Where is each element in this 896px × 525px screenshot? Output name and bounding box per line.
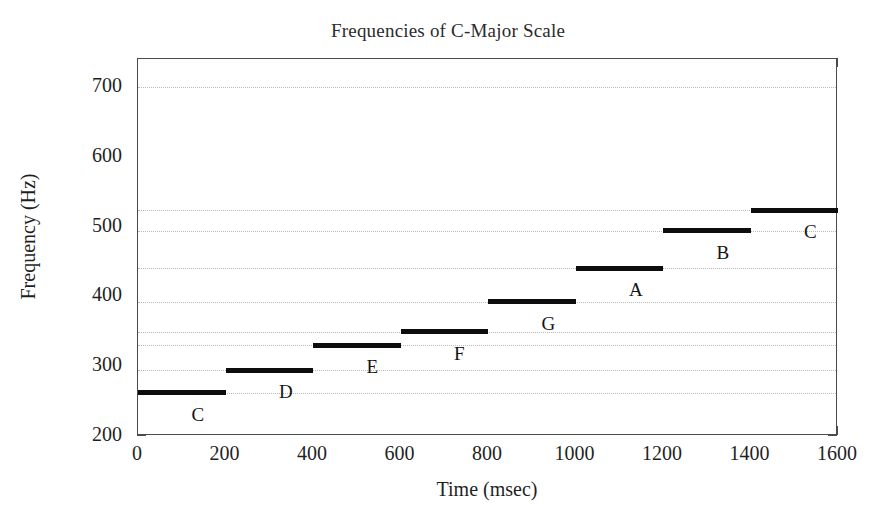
note-bar [576,266,664,271]
x-tick-label: 800 [442,443,532,463]
note-label: C [192,405,205,424]
note-label: D [279,382,293,401]
note-label: F [454,344,465,363]
note-bar [663,228,751,233]
x-tick-mark [837,426,838,435]
gridline [138,87,836,88]
gridline [138,302,836,303]
note-bar [226,368,314,373]
gridline [138,393,836,394]
chart-page: Frequencies of C-Major Scale Frequency (… [0,0,896,525]
note-label: E [367,357,379,376]
x-tick-label: 1200 [617,443,707,463]
note-bar [138,390,226,395]
note-label: G [542,314,556,333]
note-label: C [804,222,817,241]
note-bar [488,299,576,304]
note-label: A [629,280,643,299]
gridline [138,268,836,269]
y-axis-title: Frequency (Hz) [17,127,40,347]
gridline [138,345,836,346]
x-tick-mark [837,58,838,67]
x-tick-label: 1600 [792,443,882,463]
x-tick-label: 1000 [530,443,620,463]
x-tick-label: 400 [267,443,357,463]
x-tick-label: 1400 [705,443,795,463]
note-bar [401,329,489,334]
note-bar [751,208,839,213]
x-axis-title: Time (msec) [137,478,837,501]
x-tick-label: 0 [92,443,182,463]
y-tick-mark [137,435,146,436]
chart-title: Frequencies of C-Major Scale [0,20,896,42]
plot-area: CDEFGABC [137,58,837,435]
x-tick-label: 200 [180,443,270,463]
y-tick-label: 500 [72,215,122,235]
x-tick-label: 600 [355,443,445,463]
note-bar [313,343,401,348]
y-tick-label: 300 [72,354,122,374]
note-label: B [717,243,730,262]
y-tick-label: 700 [72,75,122,95]
y-tick-label: 600 [72,145,122,165]
gridline [138,210,836,211]
y-tick-mark [828,435,837,436]
y-tick-label: 200 [72,424,122,444]
y-tick-label: 400 [72,284,122,304]
